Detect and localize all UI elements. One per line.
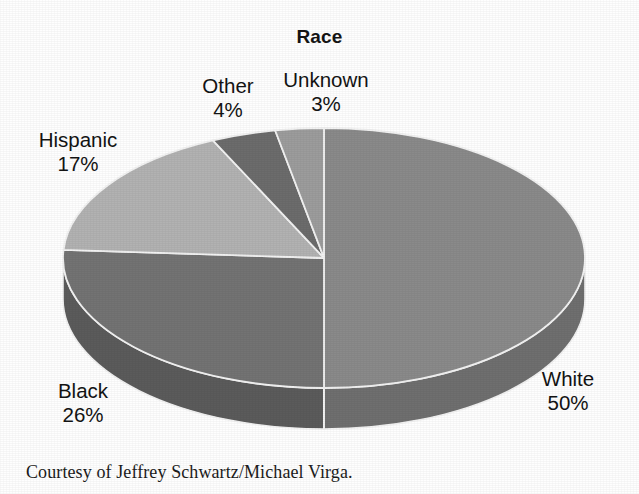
slice-label-other: Other 4% — [185, 74, 271, 122]
figure-caption: Courtesy of Jeffrey Schwartz/Michael Vir… — [26, 462, 353, 483]
slice-label-black-value: 26% — [42, 403, 124, 427]
slice-label-unknown-value: 3% — [268, 92, 384, 116]
slice-label-white-name: White — [532, 367, 604, 391]
slice-label-other-name: Other — [185, 74, 271, 98]
slice-label-white: White 50% — [532, 367, 604, 415]
slice-label-black: Black 26% — [42, 379, 124, 427]
slice-label-hispanic: Hispanic 17% — [22, 128, 134, 176]
slice-label-unknown: Unknown 3% — [268, 68, 384, 116]
slice-label-white-value: 50% — [532, 391, 604, 415]
pie-top-faces — [63, 128, 585, 388]
slice-label-black-name: Black — [42, 379, 124, 403]
slice-label-hispanic-name: Hispanic — [22, 128, 134, 152]
pie-chart-figure: Race Other 4% Unknown 3% Hispanic 17% Bl… — [0, 0, 639, 494]
slice-label-unknown-name: Unknown — [268, 68, 384, 92]
slice-label-other-value: 4% — [185, 98, 271, 122]
slice-label-hispanic-value: 17% — [22, 152, 134, 176]
